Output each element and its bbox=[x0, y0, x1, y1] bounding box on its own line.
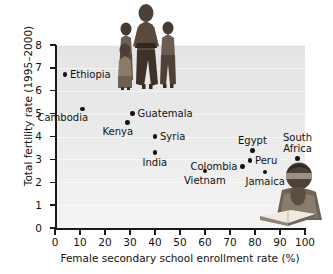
y-tick-label-0: 0 bbox=[26, 223, 42, 233]
x-tick-label-10: 10 bbox=[67, 236, 93, 248]
x-axis-title: Female secondary school enrollment rate … bbox=[40, 252, 320, 264]
x-tick-70 bbox=[229, 229, 230, 235]
data-label-south-africa: SouthAfrica bbox=[283, 133, 312, 154]
data-label-kenya: Kenya bbox=[103, 126, 134, 137]
data-point-guatemala[interactable] bbox=[130, 111, 135, 116]
data-point-india[interactable] bbox=[153, 150, 158, 155]
x-tick-50 bbox=[179, 229, 180, 235]
data-point-kenya[interactable] bbox=[125, 120, 130, 125]
data-label-ethiopia: Ethiopia bbox=[70, 69, 111, 80]
data-label-cambodia: Cambodia bbox=[38, 112, 89, 123]
y-tick-1 bbox=[50, 204, 56, 205]
data-label-guatemala: Guatemala bbox=[138, 108, 193, 119]
x-tick-90 bbox=[279, 229, 280, 235]
girl-reading-photo-graphic bbox=[258, 160, 330, 230]
y-tick-2 bbox=[50, 182, 56, 183]
x-tick-60 bbox=[204, 229, 205, 235]
y-tick-label-1: 1 bbox=[26, 200, 42, 210]
data-point-cambodia[interactable] bbox=[80, 107, 85, 112]
x-tick-0 bbox=[54, 229, 55, 235]
y-tick-7 bbox=[50, 67, 56, 68]
y-tick-4 bbox=[50, 136, 56, 137]
x-tick-label-90: 90 bbox=[267, 236, 293, 248]
data-label-jamaica: Jamaica bbox=[246, 176, 285, 187]
x-tick-label-60: 60 bbox=[192, 236, 218, 248]
girl-reading-photo bbox=[258, 160, 330, 230]
data-label-colombia: Colombia bbox=[191, 161, 238, 172]
x-tick-label-70: 70 bbox=[217, 236, 243, 248]
x-tick-label-80: 80 bbox=[242, 236, 268, 248]
data-point-colombia[interactable] bbox=[240, 164, 245, 169]
x-tick-80 bbox=[254, 229, 255, 235]
x-tick-label-100: 100 bbox=[292, 236, 318, 248]
y-tick-6 bbox=[50, 90, 56, 91]
data-point-syria[interactable] bbox=[153, 134, 158, 139]
x-tick-40 bbox=[154, 229, 155, 235]
x-tick-20 bbox=[104, 229, 105, 235]
y-tick-8 bbox=[50, 44, 56, 45]
y-tick-3 bbox=[50, 159, 56, 160]
data-point-peru[interactable] bbox=[248, 158, 253, 163]
x-tick-label-20: 20 bbox=[92, 236, 118, 248]
data-label-india: India bbox=[143, 157, 168, 168]
x-tick-label-30: 30 bbox=[117, 236, 143, 248]
family-photo-graphic bbox=[104, 0, 188, 90]
x-tick-label-0: 0 bbox=[42, 236, 68, 248]
gridline-y-6 bbox=[55, 91, 305, 92]
x-tick-100 bbox=[304, 229, 305, 235]
y-axis-title: Total fertility rate (1995–2000) bbox=[22, 16, 34, 196]
x-tick-30 bbox=[129, 229, 130, 235]
x-tick-10 bbox=[79, 229, 80, 235]
data-point-egypt[interactable] bbox=[250, 148, 255, 153]
data-label-peru: Peru bbox=[255, 155, 277, 166]
data-point-south-africa[interactable] bbox=[295, 156, 300, 161]
data-label-egypt: Egypt bbox=[238, 135, 267, 146]
data-label-vietnam: Vietnam bbox=[184, 175, 226, 186]
x-tick-label-40: 40 bbox=[142, 236, 168, 248]
family-photo bbox=[104, 0, 188, 90]
data-label-syria: Syria bbox=[160, 131, 185, 142]
x-tick-label-50: 50 bbox=[167, 236, 193, 248]
scatter-chart-figure: 0123456780102030405060708090100Total fer… bbox=[0, 0, 333, 274]
